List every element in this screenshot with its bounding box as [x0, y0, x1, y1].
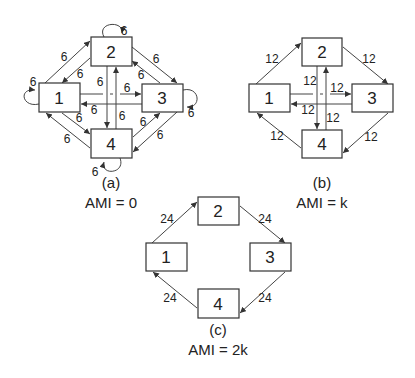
self-loop-a-3: [183, 90, 197, 108]
caption-b: (b): [262, 174, 382, 191]
edge-weight: 12: [364, 130, 378, 144]
caption-c: (c): [158, 321, 278, 338]
edge-weight: 6: [119, 109, 126, 123]
node-label: 2: [106, 43, 115, 62]
node-label: 2: [317, 43, 326, 62]
node-label: 3: [157, 89, 166, 108]
edge-weight: 6: [140, 115, 147, 129]
edge-weight: 6: [91, 103, 98, 117]
edge-weight: 12: [326, 111, 340, 125]
edge-weight: 24: [258, 212, 272, 226]
self-loop-a-4: [104, 158, 121, 171]
caption-a: (a): [51, 174, 171, 191]
node-label: 4: [213, 295, 222, 314]
self-loop-a-2: [103, 24, 123, 37]
node-label: 1: [264, 89, 273, 108]
node-label: 1: [161, 248, 170, 267]
edge-weight: 6: [157, 128, 164, 142]
edge-weight: 12: [362, 52, 376, 66]
edge-weight: 24: [163, 291, 177, 305]
edge-weight: 6: [97, 75, 104, 89]
edge-weight: 12: [330, 81, 344, 95]
edge-weight: 6: [124, 81, 131, 95]
edge-weight: 24: [258, 291, 272, 305]
node-label: 4: [317, 135, 326, 154]
edge-weight: 6: [138, 68, 145, 82]
diagram-b: 1 2 3 4 12 12 12 12 12 12 12 12: [249, 38, 393, 158]
node-label: 3: [265, 248, 274, 267]
diagram-c: 1 2 3 4 24 24 24 24: [146, 197, 291, 318]
edge-weight: 12: [270, 129, 284, 143]
loop-weight: 6: [121, 24, 128, 38]
edge-weight: 12: [301, 103, 315, 117]
diagram-a: 1 2 3 4 6 6 6 6 6 6 6 6 6 6 6 6 6 6 6 6: [24, 24, 197, 179]
ami-a: AMI = 0: [51, 194, 171, 211]
edge-weight: 12: [265, 52, 279, 66]
node-label: 2: [213, 202, 222, 221]
node-label: 3: [367, 89, 376, 108]
edge-weight: 6: [64, 132, 71, 146]
ami-c: AMI = 2k: [158, 341, 278, 358]
loop-weight: 6: [188, 106, 195, 120]
edge-weight: 24: [160, 212, 174, 226]
edge-weight: 6: [153, 52, 160, 66]
loop-weight: 6: [30, 75, 37, 89]
edge-weight: 6: [77, 67, 84, 81]
node-label: 4: [106, 135, 115, 154]
edge-weight: 6: [76, 111, 83, 125]
self-loop-a-1: [24, 90, 39, 105]
edge-weight: 6: [61, 50, 68, 64]
edge-weight: 12: [303, 74, 317, 88]
node-label: 1: [54, 89, 63, 108]
ami-b: AMI = k: [262, 194, 382, 211]
